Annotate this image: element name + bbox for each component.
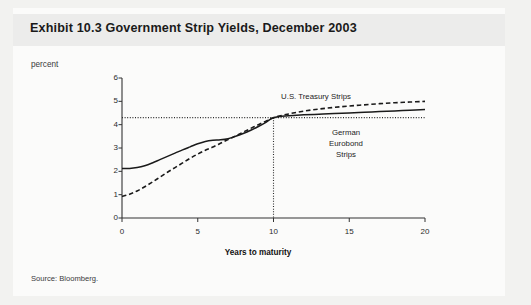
- exhibit-figure: Exhibit 10.3 Government Strip Yields, De…: [0, 0, 531, 305]
- series-label-german-eurobond: German Eurobond Strips: [301, 128, 391, 160]
- y-tick-label: 1: [108, 190, 118, 199]
- y-tick-label: 4: [108, 120, 118, 129]
- x-tick-label: 5: [188, 227, 208, 236]
- x-tick-label: 0: [112, 227, 132, 236]
- x-axis-title: Years to maturity: [168, 248, 348, 257]
- source-note: Source: Bloomberg.: [31, 274, 98, 283]
- x-axis-ticks: [122, 218, 425, 222]
- y-tick-label: 2: [108, 166, 118, 175]
- y-tick-label: 0: [108, 213, 118, 222]
- x-tick-label: 20: [415, 227, 435, 236]
- x-tick-label: 10: [264, 227, 284, 236]
- y-tick-label: 6: [108, 73, 118, 82]
- y-tick-label: 3: [108, 143, 118, 152]
- plot-area: 0123456 05101520 U.S. Treasury Strips Ge…: [13, 8, 505, 296]
- y-tick-label: 5: [108, 96, 118, 105]
- series-label-us-treasury: U.S. Treasury Strips: [261, 92, 371, 103]
- x-tick-label: 15: [339, 227, 359, 236]
- exhibit-panel: Exhibit 10.3 Government Strip Yields, De…: [13, 8, 505, 296]
